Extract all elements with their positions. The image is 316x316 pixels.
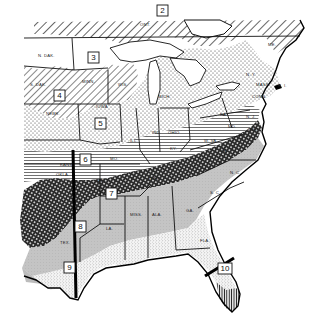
zone-2-label: 2: [157, 5, 168, 16]
label-ga: GA.: [186, 208, 194, 213]
svg-text:7: 7: [109, 189, 114, 198]
svg-text:3: 3: [91, 53, 96, 62]
label-ri: R. I.: [278, 83, 287, 88]
label-kans: KANS.: [60, 162, 74, 167]
label-ont: ONT.: [140, 22, 150, 27]
label-ky: KY.: [170, 146, 177, 151]
zone-3-label: 3: [88, 52, 99, 63]
svg-text:10: 10: [221, 264, 230, 273]
svg-text:5: 5: [98, 119, 103, 128]
zone-7-label: 7: [106, 188, 117, 199]
svg-text:6: 6: [83, 155, 88, 164]
label-ala: ALA.: [152, 212, 162, 217]
label-sdak: S. DAK.: [30, 82, 46, 87]
label-tex: TEX.: [60, 240, 70, 245]
label-ny: N. Y.: [246, 72, 256, 77]
zone-8-label: 8: [75, 221, 86, 232]
label-la: LA.: [106, 226, 113, 231]
label-minn: MINN.: [82, 79, 95, 84]
label-ohio: OHIO: [168, 130, 180, 135]
label-del: DEL.: [248, 127, 258, 132]
label-wva: W. VA.: [204, 138, 218, 143]
label-miss: MISS.: [130, 212, 142, 217]
label-iowa: IOWA: [96, 104, 108, 109]
label-ill: ILL.: [130, 138, 138, 143]
label-sc: S. C.: [210, 190, 220, 195]
label-conn: CONN.: [252, 94, 267, 99]
label-wis: WIS.: [118, 82, 128, 87]
label-me: ME.: [268, 42, 276, 47]
label-okla: OKLA.: [56, 172, 69, 177]
label-mo: MO.: [110, 156, 119, 161]
svg-text:9: 9: [67, 263, 72, 272]
label-ndak: N. DAK.: [38, 53, 55, 58]
label-nc: N. C.: [230, 170, 241, 175]
label-mass: MASS.: [256, 82, 270, 87]
svg-text:8: 8: [78, 222, 83, 231]
label-mich: MICH.: [158, 94, 171, 99]
label-md: MD.: [228, 124, 236, 129]
zone-map: N. DAK. S. DAK. NEBR. MINN. IOWA WIS. MI…: [0, 0, 316, 316]
label-fla: FLA.: [200, 238, 210, 243]
zone-5-label: 5: [95, 118, 106, 129]
zone-4-label: 4: [54, 90, 65, 101]
label-va: VA.: [220, 148, 227, 153]
label-nebr: NEBR.: [46, 111, 60, 116]
svg-text:2: 2: [160, 6, 165, 15]
zone-9-label: 9: [64, 262, 75, 273]
label-tenn: TENN.: [148, 176, 162, 181]
zone-6-label: 6: [80, 154, 91, 165]
svg-text:4: 4: [57, 91, 62, 100]
label-ind: IND.: [152, 130, 161, 135]
label-pa: PA.: [220, 112, 227, 117]
label-ark: ARK.: [96, 178, 107, 183]
zone-10-label: 10: [218, 263, 232, 274]
label-nj: N. J.: [246, 114, 256, 119]
